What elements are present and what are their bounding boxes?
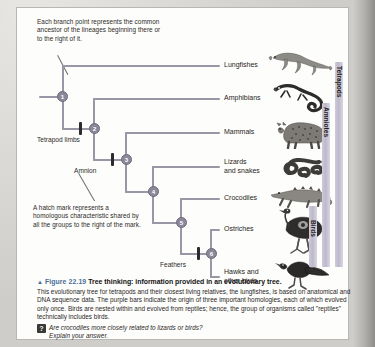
caption-body: This evolutionary tree for tetrapods and… bbox=[37, 288, 355, 322]
figure-number: Figure 22.19 bbox=[45, 278, 86, 285]
branch-node-4[interactable]: 4 bbox=[148, 186, 159, 197]
hatch-mark-feathers bbox=[197, 247, 200, 260]
taxon-label-mammals: Mammals bbox=[224, 128, 254, 137]
hatch-mark-tetrapod-limbs bbox=[79, 122, 82, 135]
branch-node-6[interactable]: 6 bbox=[206, 248, 217, 259]
book-gutter-shadow bbox=[353, 0, 375, 347]
branch-crocodiles bbox=[180, 198, 220, 200]
caption-triangle-icon: ▲ bbox=[37, 279, 43, 285]
figure-caption: ▲ Figure 22.19 Tree thinking: informatio… bbox=[37, 277, 355, 340]
phylogenetic-tree: Tetrapod limbs Amnion Feathers 1 2 3 4 5… bbox=[17, 8, 350, 298]
lungfish-illustration bbox=[267, 46, 333, 76]
clade-label-tetrapods: Tetrapods bbox=[336, 66, 343, 97]
question-row: ? Are crocodiles more closely related to… bbox=[37, 324, 355, 341]
ostrich-illustration bbox=[273, 208, 327, 254]
figure-title: Tree thinking: information provided in a… bbox=[88, 278, 281, 285]
hatch-mark-amnion bbox=[111, 153, 114, 166]
caption-heading: ▲ Figure 22.19 Tree thinking: informatio… bbox=[37, 277, 355, 287]
hatch-label-tetrapod-limbs: Tetrapod limbs bbox=[37, 136, 80, 143]
clade-label-birds: Birds bbox=[310, 220, 317, 237]
clade-label-amniotes: Amniotes bbox=[323, 107, 330, 137]
branch-node-1[interactable]: 1 bbox=[57, 91, 68, 102]
branch-lizards bbox=[152, 166, 220, 168]
branch-mammals bbox=[125, 132, 220, 134]
branch-amphibians bbox=[93, 98, 220, 100]
branch-node-5[interactable]: 5 bbox=[176, 217, 187, 228]
question-mark-icon: ? bbox=[37, 324, 46, 333]
hatch-label-feathers: Feathers bbox=[160, 261, 186, 268]
taxon-label-ostriches: Ostriches bbox=[224, 225, 254, 234]
taxon-label-amphibians: Amphibians bbox=[224, 94, 261, 103]
taxon-label-crocodiles: Crocodiles bbox=[224, 194, 257, 203]
question-text: Are crocodiles more closely related to l… bbox=[49, 324, 202, 341]
branch-lungfishes bbox=[62, 65, 220, 67]
taxon-label-lizards-and-snakes: Lizards and snakes bbox=[224, 158, 260, 175]
hatch-label-amnion: Amnion bbox=[74, 167, 96, 174]
taxon-label-lungfishes: Lungfishes bbox=[224, 61, 258, 70]
branch-node-2[interactable]: 2 bbox=[89, 123, 100, 134]
branch-node-3[interactable]: 3 bbox=[121, 154, 132, 165]
figure-panel: Each branch point represents the common … bbox=[16, 7, 349, 340]
